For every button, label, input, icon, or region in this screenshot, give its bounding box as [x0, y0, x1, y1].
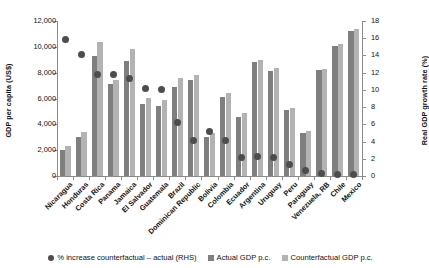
right-tick-label: 6: [371, 119, 401, 128]
legend-label-pct-increase: % increase counterfactual – actual (RHS): [57, 253, 196, 262]
bar-counterfactual: [210, 133, 215, 176]
bar-counterfactual: [194, 75, 199, 176]
x-tick-mark: [169, 176, 170, 180]
bar-actual: [348, 31, 353, 176]
bar-counterfactual: [354, 29, 359, 176]
bar-actual: [172, 87, 177, 176]
data-point-pct-increase: [110, 71, 117, 78]
x-tick-mark: [266, 176, 267, 180]
right-tick-mark: [362, 159, 366, 160]
bar-counterfactual: [162, 100, 167, 176]
x-tick-mark: [153, 176, 154, 180]
left-tick-label: 8,000: [0, 68, 56, 77]
x-tick-mark: [105, 176, 106, 180]
right-tick-label: 0: [371, 171, 401, 180]
bar-counterfactual: [322, 69, 327, 176]
right-tick-mark: [362, 73, 366, 74]
x-tick-mark: [298, 176, 299, 180]
bar-counterfactual: [113, 80, 118, 176]
bar-actual: [188, 80, 193, 176]
plot-area: 02,0004,0006,0008,00010,00012,000 024681…: [57, 21, 362, 176]
x-tick-mark: [121, 176, 122, 180]
legend-dot-icon: [48, 255, 54, 261]
bar-actual: [76, 137, 81, 176]
right-tick-label: 4: [371, 137, 401, 146]
data-point-pct-increase: [206, 128, 213, 135]
data-point-pct-increase: [62, 36, 69, 43]
right-tick-label: 2: [371, 154, 401, 163]
data-point-pct-increase: [158, 86, 165, 93]
bar-counterfactual: [226, 93, 231, 176]
right-tick-label: 18: [371, 16, 401, 25]
legend-item-pct-increase: % increase counterfactual – actual (RHS): [48, 253, 196, 262]
bar-actual: [140, 104, 145, 176]
right-axis-line: [362, 21, 363, 176]
x-tick-mark: [234, 176, 235, 180]
left-tick-label: 6,000: [0, 94, 56, 103]
right-tick-mark: [362, 90, 366, 91]
bar-actual: [204, 137, 209, 176]
x-tick-mark: [346, 176, 347, 180]
bar-counterfactual: [178, 78, 183, 176]
bar-counterfactual: [65, 146, 70, 176]
right-tick-label: 10: [371, 85, 401, 94]
legend-label-counterfactual: Counterfactual GDP p.c.: [291, 253, 373, 262]
bar-counterfactual: [242, 113, 247, 176]
bar-actual: [108, 84, 113, 176]
legend-item-actual: Actual GDP p.c.: [208, 253, 271, 262]
x-tick-mark: [218, 176, 219, 180]
x-tick-mark: [137, 176, 138, 180]
left-tick-label: 10,000: [0, 42, 56, 51]
right-tick-mark: [362, 55, 366, 56]
legend-item-counterfactual: Counterfactual GDP p.c.: [282, 253, 373, 262]
bar-actual: [156, 106, 161, 176]
right-tick-label: 8: [371, 102, 401, 111]
x-tick-mark: [201, 176, 202, 180]
x-tick-mark: [73, 176, 74, 180]
bar-counterfactual: [146, 98, 151, 176]
right-tick-mark: [362, 38, 366, 39]
left-tick-label: 4,000: [0, 119, 56, 128]
right-tick-label: 16: [371, 33, 401, 42]
x-axis-line: [57, 176, 363, 177]
left-tick-label: 2,000: [0, 145, 56, 154]
left-tick-label: 12,000: [0, 16, 56, 25]
x-tick-mark: [185, 176, 186, 180]
data-point-pct-increase: [126, 75, 133, 82]
right-tick-mark: [362, 21, 366, 22]
x-tick-mark: [314, 176, 315, 180]
x-tick-mark: [250, 176, 251, 180]
bar-actual: [60, 150, 65, 176]
data-point-pct-increase: [238, 154, 245, 161]
data-point-pct-increase: [174, 119, 181, 126]
x-tick-mark: [89, 176, 90, 180]
bar-counterfactual: [81, 132, 86, 176]
chart-legend: % increase counterfactual – actual (RHS)…: [0, 253, 421, 262]
bar-counterfactual: [130, 49, 135, 176]
x-tick-mark: [362, 176, 363, 180]
right-tick-mark: [362, 142, 366, 143]
data-point-pct-increase: [254, 153, 261, 160]
legend-swatch-actual-icon: [208, 255, 214, 261]
right-tick-label: 14: [371, 50, 401, 59]
right-tick-mark: [362, 107, 366, 108]
x-tick-mark: [282, 176, 283, 180]
data-point-pct-increase: [142, 85, 149, 92]
right-tick-mark: [362, 124, 366, 125]
y-axis-label-right: Real GDP growth rate (%): [420, 51, 429, 151]
x-tick-mark: [330, 176, 331, 180]
right-tick-label: 12: [371, 68, 401, 77]
legend-label-actual: Actual GDP p.c.: [217, 253, 271, 262]
bar-actual: [332, 46, 337, 176]
bar-counterfactual: [338, 44, 343, 176]
bar-counterfactual: [97, 42, 102, 176]
x-tick-mark: [57, 176, 58, 180]
left-tick-label: 0: [0, 171, 56, 180]
data-point-pct-increase: [78, 51, 85, 58]
bar-actual: [316, 70, 321, 176]
left-axis-line: [57, 21, 58, 176]
legend-swatch-counterfactual-icon: [282, 255, 288, 261]
data-point-pct-increase: [94, 71, 101, 78]
bar-actual: [236, 117, 241, 176]
